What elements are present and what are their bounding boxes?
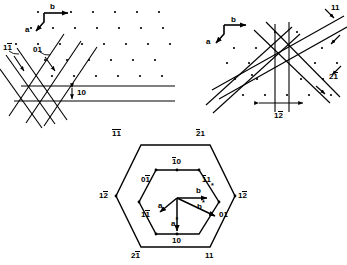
axis-label-b-right: b bbox=[231, 16, 236, 24]
label-line-11bar: 11 bbox=[3, 44, 12, 52]
hex-inner-upper-left: 01 bbox=[141, 176, 150, 184]
lattice-dots-left bbox=[15, 11, 171, 77]
hex-inner-top: 10 bbox=[172, 158, 181, 166]
vector-label-b-star-upper: * bbox=[211, 182, 214, 194]
axis-label-a-left: a bbox=[25, 26, 29, 34]
vector-set bbox=[160, 198, 215, 231]
axis-label-b-left: b bbox=[50, 3, 55, 11]
hex-outer-bottom-left: 21 bbox=[131, 252, 140, 260]
band-11 bbox=[212, 16, 347, 99]
hex-inner-bottom: 10 bbox=[172, 237, 181, 245]
hex-outer-right: 12 bbox=[238, 192, 247, 200]
band-aux bbox=[206, 27, 300, 113]
band-pointer-arrows bbox=[316, 9, 341, 94]
hex-inner-lower-right: 01 bbox=[219, 211, 228, 219]
vector-label-b-star: b* bbox=[197, 199, 205, 211]
hex-outer-top-right: 21 bbox=[196, 130, 205, 138]
panel-right bbox=[206, 9, 347, 113]
row-traces-left bbox=[14, 86, 175, 101]
axis-label-a-right: a bbox=[206, 38, 210, 46]
oblique-traces-11bar bbox=[0, 48, 67, 128]
band-21bar bbox=[254, 22, 340, 103]
oblique-traces-01 bbox=[9, 34, 97, 126]
vector-b-star bbox=[177, 198, 215, 216]
vector-label-a-star: a* bbox=[171, 216, 178, 228]
label-spacing-10: 10 bbox=[77, 89, 86, 97]
vector-a bbox=[160, 198, 177, 212]
hex-outer-top-left: 11 bbox=[112, 130, 121, 138]
hex-inner-lower-left: 11 bbox=[141, 211, 150, 219]
label-band-21bar: 21 bbox=[329, 73, 338, 81]
hex-inner-upper-right: 11 bbox=[202, 176, 211, 184]
label-band-12bar: 12 bbox=[274, 112, 283, 120]
hex-outer-bottom-right: 11 bbox=[205, 252, 213, 260]
hex-outer-left: 12 bbox=[99, 192, 108, 200]
label-band-11: 11 bbox=[331, 4, 339, 12]
vector-label-a: a bbox=[158, 202, 162, 210]
vector-label-b: b bbox=[196, 187, 201, 195]
axis-marker-right bbox=[216, 25, 246, 43]
label-line-01: 01 bbox=[33, 46, 42, 54]
